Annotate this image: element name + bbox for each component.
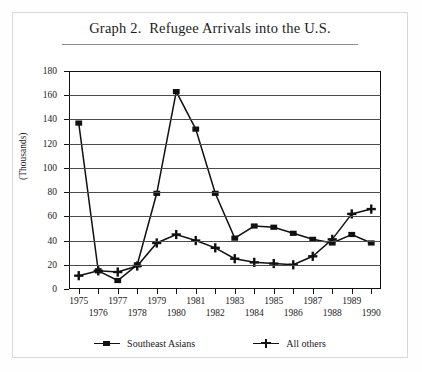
y-tick-mark xyxy=(64,241,69,242)
chart-legend: Southeast Asians All others xyxy=(12,332,408,354)
x-tick-mark xyxy=(196,289,197,294)
y-tick-mark xyxy=(64,119,69,120)
y-tick-label: 180 xyxy=(27,66,57,76)
y-tick-mark xyxy=(64,71,69,72)
x-tick-label: 1978 xyxy=(128,308,147,318)
x-tick-label: 1982 xyxy=(206,308,225,318)
gridline xyxy=(69,192,381,193)
y-tick-label: 20 xyxy=(27,260,57,270)
y-tick-label: 120 xyxy=(27,139,57,149)
title-underline xyxy=(62,44,358,45)
x-tick-mark xyxy=(118,289,119,294)
legend-item-all-others: All others xyxy=(253,338,326,349)
x-tick-label: 1983 xyxy=(225,296,244,306)
x-tick-label: 1986 xyxy=(284,308,303,318)
x-tick-mark xyxy=(79,289,80,294)
legend-item-southeast-asians: Southeast Asians xyxy=(94,338,195,349)
y-tick-label: 0 xyxy=(27,284,57,294)
y-tick-label: 80 xyxy=(27,187,57,197)
y-tick-label: 160 xyxy=(27,90,57,100)
x-tick-mark xyxy=(176,289,177,294)
x-tick-mark xyxy=(293,289,294,294)
plus-marker-icon xyxy=(253,338,279,348)
x-tick-mark xyxy=(98,289,99,294)
x-tick-label: 1976 xyxy=(89,308,108,318)
gridline xyxy=(69,241,381,242)
chart-title: Graph 2. Refugee Arrivals into the U.S. xyxy=(12,20,408,37)
x-tick-label: 1975 xyxy=(69,296,88,306)
gridline xyxy=(69,168,381,169)
plot-area: 020406080100120140160180 xyxy=(69,71,381,289)
y-tick-label: 140 xyxy=(27,114,57,124)
y-tick-mark xyxy=(64,95,69,96)
x-tick-mark xyxy=(137,289,138,294)
x-tick-mark xyxy=(332,289,333,294)
gridline xyxy=(69,265,381,266)
y-tick-mark xyxy=(64,192,69,193)
y-tick-mark xyxy=(64,216,69,217)
y-tick-label: 100 xyxy=(27,163,57,173)
x-tick-label: 1980 xyxy=(167,308,186,318)
gridline xyxy=(69,144,381,145)
x-tick-mark xyxy=(274,289,275,294)
y-tick-mark xyxy=(64,289,69,290)
x-tick-label: 1985 xyxy=(264,296,283,306)
x-tick-mark xyxy=(254,289,255,294)
legend-label-all-others: All others xyxy=(286,338,326,349)
x-tick-label: 1984 xyxy=(245,308,264,318)
x-tick-label: 1987 xyxy=(303,296,322,306)
y-tick-label: 60 xyxy=(27,211,57,221)
x-tick-label: 1979 xyxy=(147,296,166,306)
y-tick-mark xyxy=(64,168,69,169)
x-tick-mark xyxy=(371,289,372,294)
x-tick-mark xyxy=(313,289,314,294)
x-tick-mark xyxy=(352,289,353,294)
gridline xyxy=(69,119,381,120)
plot-border xyxy=(69,71,381,289)
x-tick-mark xyxy=(215,289,216,294)
y-tick-label: 40 xyxy=(27,236,57,246)
x-tick-mark xyxy=(157,289,158,294)
x-tick-label: 1989 xyxy=(342,296,361,306)
x-tick-label: 1988 xyxy=(323,308,342,318)
gridline xyxy=(69,216,381,217)
x-tick-mark xyxy=(235,289,236,294)
figure-container: Graph 2. Refugee Arrivals into the U.S. … xyxy=(0,0,422,372)
legend-label-southeast-asians: Southeast Asians xyxy=(127,338,195,349)
gridline xyxy=(69,95,381,96)
y-tick-mark xyxy=(64,144,69,145)
square-marker-icon xyxy=(94,338,120,348)
x-tick-label: 1977 xyxy=(108,296,127,306)
y-tick-mark xyxy=(64,265,69,266)
x-tick-label: 1990 xyxy=(362,308,381,318)
x-tick-label: 1981 xyxy=(186,296,205,306)
